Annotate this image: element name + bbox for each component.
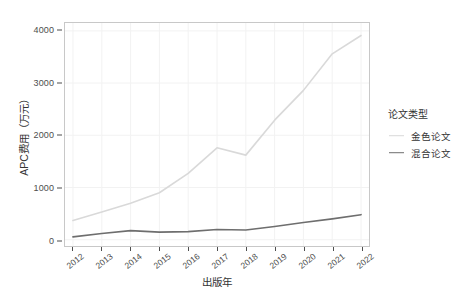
x-tick-mark [72,247,73,251]
y-tick-label: 0 [49,236,54,246]
legend: 论文类型 金色论文混合论文 [388,106,474,162]
y-tick-mark [57,240,62,241]
legend-entry-label: 混合论文 [411,146,451,160]
x-tick-mark [217,247,218,251]
x-tick-label: 2020 [297,251,318,271]
x-tick-label: 2012 [65,251,86,271]
x-tick-mark [159,247,160,251]
x-tick-label: 2022 [355,251,376,271]
y-tick-label: 4000 [34,25,54,35]
x-tick-label: 2016 [181,251,202,271]
y-tick-mark [57,187,62,188]
legend-title: 论文类型 [388,106,474,121]
y-tick-mark [57,82,62,83]
x-axis: 2012201320142015201620172018201920202021… [64,247,370,286]
x-tick-mark [246,247,247,251]
plot-svg [65,23,369,246]
legend-entry[interactable]: 金色论文 [388,128,474,143]
y-axis-title: APC费用（万元） [16,35,31,235]
x-tick-mark [362,247,363,251]
x-tick-label: 2014 [123,251,144,271]
y-axis: 01000200030004000 APC费用（万元） [0,22,64,247]
gridlines [65,23,369,246]
y-tick-label: 1000 [34,183,54,193]
y-tick-label: 2000 [34,130,54,140]
x-tick-mark [275,247,276,251]
x-tick-label: 2018 [239,251,260,271]
legend-entries: 金色论文混合论文 [388,128,474,160]
x-tick-label: 2021 [326,251,347,271]
x-tick-label: 2015 [152,251,173,271]
x-tick-mark [333,247,334,251]
legend-entry[interactable]: 混合论文 [388,145,474,160]
legend-entry-label: 金色论文 [411,129,451,143]
x-tick-label: 2017 [210,251,231,271]
x-tick-mark [130,247,131,251]
x-tick-mark [304,247,305,251]
y-tick-mark [57,29,62,30]
x-tick-mark [101,247,102,251]
legend-line-icon [388,147,405,158]
x-tick-mark [188,247,189,251]
x-axis-title: 出版年 [64,274,370,289]
x-tick-label: 2013 [94,251,115,271]
plot-panel [64,22,370,247]
x-tick-label: 2019 [268,251,289,271]
legend-line-icon [388,130,405,141]
y-tick-label: 3000 [34,78,54,88]
y-tick-mark [57,135,62,136]
